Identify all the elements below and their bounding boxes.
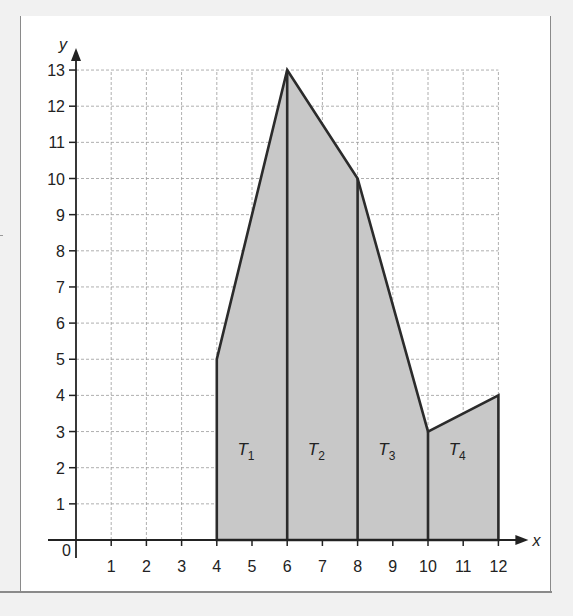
x-tick-label: 5	[248, 558, 257, 575]
y-tick-label: 7	[56, 279, 65, 296]
y-tick-label: 11	[48, 134, 65, 151]
x-tick-label: 11	[455, 558, 472, 575]
y-tick-label: 1	[56, 496, 65, 513]
x-tick-label: 12	[490, 558, 508, 575]
x-tick-label: 8	[353, 558, 362, 575]
region-subscript: 4	[459, 449, 466, 463]
x-tick-label: 3	[177, 558, 186, 575]
y-axis-label: y	[58, 36, 68, 53]
x-tick-label: 7	[318, 558, 327, 575]
x-axis-arrow-icon	[515, 535, 528, 545]
x-tick-label: 10	[419, 558, 437, 575]
region-subscript: 2	[318, 449, 325, 463]
y-tick-label: 8	[56, 243, 65, 260]
x-tick-label: 2	[142, 558, 151, 575]
x-tick-label: 6	[283, 558, 292, 575]
y-tick-label: 3	[56, 424, 65, 441]
origin-label: 0	[62, 542, 71, 559]
y-tick-label: 10	[47, 171, 65, 188]
shaded-area	[217, 70, 499, 540]
region-subscript: 3	[389, 449, 396, 463]
y-tick-label: 4	[56, 387, 65, 404]
x-axis-label: x	[531, 532, 541, 549]
y-tick-label: 6	[56, 315, 65, 332]
y-axis-arrow-icon	[71, 48, 81, 61]
y-tick-label: 2	[56, 460, 65, 477]
y-tick-label: 12	[47, 98, 65, 115]
x-tick-label: 4	[212, 558, 221, 575]
trapezium-rule-chart: 123456789101112123456789101112130xyT1T2T…	[0, 0, 573, 616]
y-tick-label: 9	[56, 207, 65, 224]
region-subscript: 1	[248, 449, 255, 463]
y-tick-label: 13	[47, 62, 65, 79]
x-tick-label: 1	[107, 558, 116, 575]
y-tick-label: 5	[56, 351, 65, 368]
x-tick-label: 9	[388, 558, 397, 575]
